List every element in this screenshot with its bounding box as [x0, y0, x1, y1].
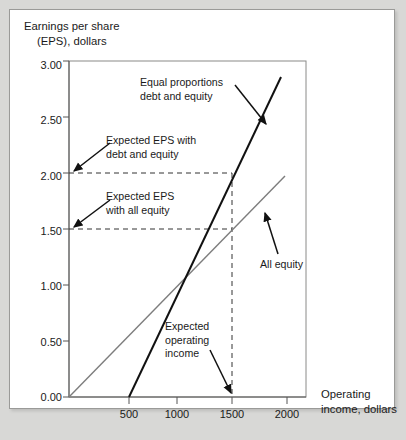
arrow-expected-eps-all-equity — [74, 200, 110, 227]
arrow-expected-eps-debt-equity — [74, 143, 110, 171]
eps-vs-operating-income-chart: Earnings per share (EPS), dollars Operat… — [10, 10, 396, 410]
chart-canvas — [10, 10, 396, 410]
arrow-equal-proportions — [235, 85, 266, 124]
series-line-all-equity — [69, 176, 285, 397]
figure-card: Earnings per share (EPS), dollars Operat… — [9, 9, 395, 409]
x-tick-marks — [129, 397, 287, 404]
series-line-equal-proportions-debt-and-equity — [129, 77, 281, 397]
y-tick-marks — [63, 61, 69, 397]
arrow-expected-operating-income — [210, 350, 231, 393]
arrow-all-equity — [265, 213, 278, 254]
